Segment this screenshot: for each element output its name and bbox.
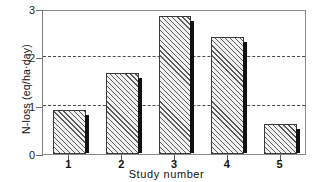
bar-slot-5 — [264, 9, 297, 154]
bars-group — [43, 11, 305, 154]
y-axis-label: N-loss (eq/ha·day) — [20, 17, 32, 162]
y-tick-mark-1 — [36, 107, 43, 108]
bar-study-3 — [159, 16, 192, 154]
bar-shadow-3 — [190, 21, 194, 153]
y-tick-mark-2 — [36, 58, 43, 59]
plot-area — [42, 10, 306, 155]
bar-slot-2 — [106, 9, 139, 154]
bar-study-5 — [264, 124, 297, 154]
bar-study-2 — [106, 73, 139, 154]
bar-shadow-2 — [138, 78, 142, 153]
bar-shadow-1 — [85, 115, 89, 153]
y-tick-label-3: 3 — [29, 5, 35, 16]
bar-slot-3 — [159, 9, 192, 154]
bar-shadow-5 — [296, 129, 300, 153]
bar-slot-4 — [211, 9, 244, 154]
y-tick-mark-3 — [36, 10, 43, 11]
bar-shadow-4 — [243, 42, 247, 153]
y-axis-line — [42, 10, 43, 156]
y-tick-mark-0 — [36, 155, 43, 156]
bar-chart-figure: 0123 12345 N-loss (eq/ha·day) Study numb… — [0, 0, 333, 182]
bar-study-4 — [211, 37, 244, 154]
bar-slot-1 — [53, 9, 86, 154]
bar-study-1 — [53, 110, 86, 154]
x-axis-label: Study number — [0, 168, 333, 180]
